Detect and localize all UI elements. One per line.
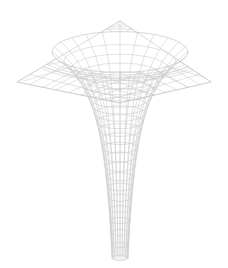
funnel-throat	[52, 32, 188, 261]
gravity-well-wireframe-svg: Gravity well embedding diagram Wireframe…	[0, 0, 228, 268]
flat-outer-plane	[17, 21, 211, 103]
plane-outline	[17, 21, 211, 103]
figure-root: Gravity well embedding diagram Wireframe…	[0, 0, 228, 268]
